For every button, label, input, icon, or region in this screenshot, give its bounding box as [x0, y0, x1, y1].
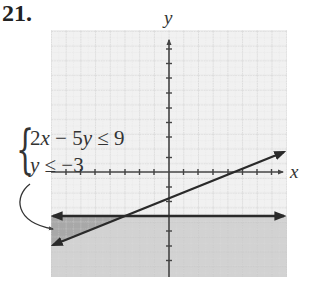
inequality-1: 2x − 5y ≤ 9: [30, 125, 125, 151]
relation: ≤ 9: [92, 126, 125, 150]
relation: ≤ −3: [39, 153, 83, 177]
variable-x: x: [41, 126, 50, 150]
operator: − 5: [50, 126, 83, 150]
variable-y: y: [83, 126, 92, 150]
y-axis-label: y: [162, 7, 173, 28]
variable-y: y: [30, 153, 39, 177]
coefficient: 2: [30, 126, 41, 150]
pointer-arrow: [20, 184, 53, 229]
inequality-2: y ≤ −3: [30, 152, 84, 178]
x-axis-label: x: [289, 161, 299, 182]
